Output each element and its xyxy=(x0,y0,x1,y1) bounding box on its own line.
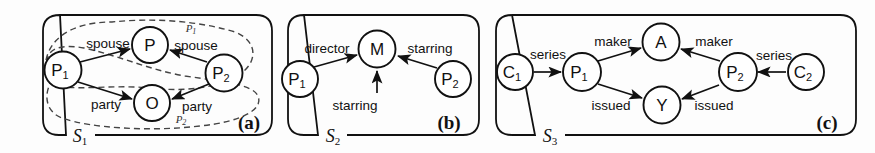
edge-c-p1-a xyxy=(598,48,641,61)
edge-label-a-party-right: party xyxy=(182,99,212,114)
svg-text:A: A xyxy=(655,33,667,52)
figure-container: P1 P2 spouse spouse party party P1 P xyxy=(0,0,875,153)
panel-c: series maker issued maker issued series … xyxy=(496,15,856,147)
region-p2-label: P2 xyxy=(175,113,187,127)
svg-text:O: O xyxy=(145,94,158,113)
edge-label-c-issued-left: issued xyxy=(591,98,630,113)
edge-a-p2-o xyxy=(172,84,209,99)
panel-caption-c: (c) xyxy=(816,112,837,134)
node-a-o[interactable]: O xyxy=(134,85,170,121)
node-c-p1[interactable]: P1 xyxy=(563,53,601,91)
edge-b-p2-m-starring xyxy=(398,56,437,68)
node-b-p1[interactable]: P1 xyxy=(282,61,318,97)
node-b-m[interactable]: M xyxy=(359,31,396,68)
svg-text:P: P xyxy=(144,36,155,55)
node-c-y[interactable]: Y xyxy=(644,87,681,124)
edge-label-c-series-left: series xyxy=(530,47,566,62)
node-c-a[interactable]: A xyxy=(643,24,680,61)
node-c-p2[interactable]: P2 xyxy=(719,53,757,91)
diagram-canvas: P1 P2 spouse spouse party party P1 P xyxy=(0,0,875,153)
edge-label-b-director: director xyxy=(304,41,350,56)
svg-text:M: M xyxy=(370,40,384,59)
edge-label-a-spouse-right: spouse xyxy=(174,38,218,53)
edge-label-b-starring-left: starring xyxy=(332,98,377,113)
node-b-p2[interactable]: P2 xyxy=(435,61,471,97)
svg-text:Y: Y xyxy=(656,96,667,115)
edge-label-c-issued-right: issued xyxy=(694,98,733,113)
edge-b-p1-m-director xyxy=(314,55,357,67)
edge-label-c-series-right: series xyxy=(756,48,792,63)
node-a-p[interactable]: P xyxy=(132,27,168,63)
panel-a: P1 P2 spouse spouse party party P1 P xyxy=(43,15,272,147)
scope-label-s3: S3 xyxy=(543,126,558,147)
scope-label-s1: S1 xyxy=(73,126,88,147)
panel-caption-a: (a) xyxy=(238,112,260,134)
edge-label-c-maker-left: maker xyxy=(594,34,632,49)
edge-c-p1-y xyxy=(598,84,642,98)
edge-c-p2-a xyxy=(681,49,720,61)
node-c-c2[interactable]: C2 xyxy=(788,54,824,90)
edge-label-a-party-left: party xyxy=(91,97,121,112)
panel-caption-b: (b) xyxy=(437,112,460,134)
region-p1-label: P1 xyxy=(185,22,197,36)
edge-label-c-maker-right: maker xyxy=(695,34,733,49)
panel-b: director starring starring P1 M P2 S2 (b… xyxy=(282,15,479,147)
edge-label-a-spouse-left: spouse xyxy=(86,36,130,51)
node-c-c1[interactable]: C1 xyxy=(497,54,533,90)
node-a-p2[interactable]: P2 xyxy=(206,55,243,92)
node-a-p1[interactable]: P1 xyxy=(45,52,82,89)
edge-a-p1-p xyxy=(80,49,130,62)
edge-label-b-starring-right: starring xyxy=(407,41,452,56)
scope-label-s2: S2 xyxy=(326,126,341,147)
